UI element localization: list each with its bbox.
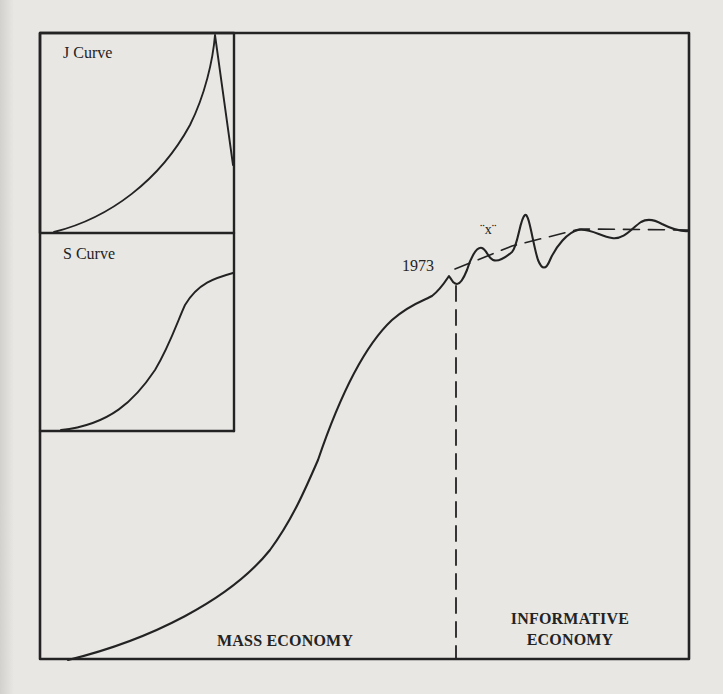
j-curve-title: J Curve	[63, 44, 112, 62]
informative-economy-line1: INFORMATIVE	[490, 608, 650, 629]
s-curve-title: S Curve	[63, 245, 115, 263]
figure-canvas: J Curve S Curve 1973 ¨x¨ MASS ECONOMY IN…	[0, 0, 723, 694]
s-curve-line	[61, 273, 233, 430]
main-growth-curve	[68, 215, 689, 660]
j-curve-frame	[40, 33, 234, 233]
year-1973-label: 1973	[402, 257, 434, 275]
informative-economy-line2: ECONOMY	[490, 629, 650, 650]
diagram-svg	[0, 0, 723, 694]
informative-economy-label: INFORMATIVE ECONOMY	[490, 608, 650, 650]
j-curve-line	[54, 35, 233, 232]
x-annotation-label: ¨x¨	[480, 222, 496, 238]
mass-economy-label: MASS ECONOMY	[217, 630, 353, 651]
main-frame	[40, 33, 689, 659]
